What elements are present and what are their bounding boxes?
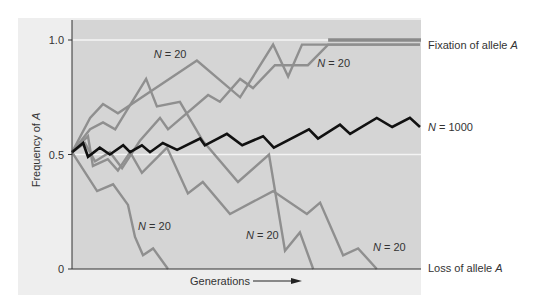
- n20-label: N = 20: [138, 220, 171, 232]
- n20-label: N = 20: [154, 48, 187, 60]
- n20-label: N = 20: [373, 241, 406, 253]
- genetic-drift-chart: 00.51.0 Frequency of A Generations Fixat…: [0, 0, 534, 305]
- y-axis-title-text: Frequency of: [30, 120, 42, 187]
- n1000-label: N = 1000: [428, 121, 473, 133]
- y-tick-label: 1.0: [49, 34, 64, 46]
- y-axis-title-italic: A: [30, 113, 42, 121]
- n20-label: N = 20: [246, 229, 279, 241]
- n20-label: N = 20: [317, 57, 350, 69]
- loss-label: Loss of allele A: [428, 262, 503, 274]
- y-axis-title: Frequency of A: [30, 113, 42, 188]
- fixation-label: Fixation of allele A: [428, 39, 518, 51]
- y-tick-label: 0.5: [49, 149, 64, 161]
- x-axis-title: Generations: [190, 275, 250, 287]
- y-tick-label: 0: [58, 263, 64, 275]
